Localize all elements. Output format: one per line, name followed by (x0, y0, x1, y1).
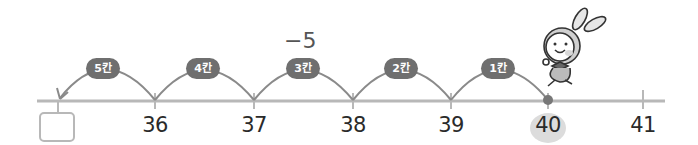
tick-label: 41 (630, 113, 656, 137)
jump-badge: 3칸 (286, 58, 320, 79)
tick-label: 36 (142, 113, 168, 137)
jump-badge: 2칸 (384, 58, 418, 79)
tick-label: 37 (241, 113, 267, 137)
tick-label: 38 (340, 113, 366, 137)
start-dot (543, 95, 553, 105)
operation-label: −5 (284, 28, 316, 53)
tick-label: 39 (438, 113, 464, 137)
jump-badge: 1칸 (481, 58, 515, 79)
tick-label-start: 40 (535, 113, 561, 137)
rabbit-mascot-icon (543, 6, 608, 86)
jump-badge: 4칸 (186, 58, 220, 79)
answer-box[interactable] (39, 112, 75, 142)
jump-badge: 5칸 (86, 58, 120, 79)
